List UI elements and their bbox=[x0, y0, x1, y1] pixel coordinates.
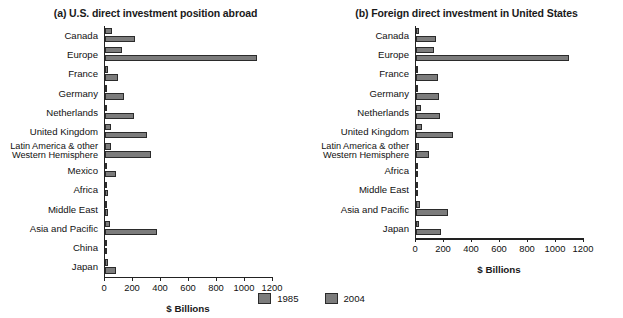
panel-a-plot: CanadaEuropeFranceGermanyNetherlandsUnit… bbox=[0, 26, 311, 314]
bar-2004 bbox=[105, 113, 134, 119]
bar-track bbox=[104, 122, 272, 141]
bar-1985 bbox=[105, 182, 107, 188]
bar-track bbox=[104, 180, 272, 199]
category-label: Japan bbox=[0, 262, 104, 272]
bar-1985 bbox=[416, 105, 421, 111]
bar-2004 bbox=[416, 74, 438, 80]
bar-2004 bbox=[105, 171, 116, 177]
bar-1985 bbox=[105, 201, 107, 207]
bar-2004 bbox=[105, 209, 108, 215]
bar-2004 bbox=[105, 55, 257, 61]
bar-1985 bbox=[105, 259, 108, 265]
chart-row: Africa bbox=[311, 161, 622, 180]
chart-row: Europe bbox=[311, 45, 622, 64]
bar-2004 bbox=[416, 36, 436, 42]
bar-1985 bbox=[416, 221, 419, 227]
bar-1985 bbox=[105, 66, 108, 72]
chart-row: United Kingdom bbox=[0, 122, 311, 141]
axis-tick-label: 200 bbox=[435, 243, 451, 254]
bar-2004 bbox=[416, 93, 439, 99]
bar-track bbox=[104, 238, 272, 257]
bar-2004 bbox=[416, 55, 569, 61]
category-label: Middle East bbox=[0, 205, 104, 215]
axis-tick-label: 600 bbox=[491, 243, 507, 254]
category-label: Europe bbox=[311, 50, 415, 60]
bar-track bbox=[415, 122, 583, 141]
chart-row: Asia and Pacific bbox=[311, 200, 622, 219]
chart-row: Mexico bbox=[0, 161, 311, 180]
category-label: Japan bbox=[311, 224, 415, 234]
bar-track bbox=[104, 84, 272, 103]
bar-track bbox=[415, 84, 583, 103]
bar-2004 bbox=[416, 229, 441, 235]
chart-row: Latin America & other Western Hemisphere bbox=[0, 142, 311, 161]
axis-tick-label: 400 bbox=[463, 243, 479, 254]
category-label: Asia and Pacific bbox=[311, 205, 415, 215]
bar-1985 bbox=[416, 85, 418, 91]
bar-2004 bbox=[105, 132, 147, 138]
legend-swatch-icon bbox=[258, 293, 271, 304]
panel-a-tick-labels: 020040060080010001200 bbox=[104, 278, 272, 292]
chart-row: Canada bbox=[311, 26, 622, 45]
category-label: France bbox=[0, 69, 104, 79]
panel-b-title: (b) Foreign direct investment in United … bbox=[311, 0, 622, 26]
chart-row: Latin America & other Western Hemisphere bbox=[311, 142, 622, 161]
chart-row: Europe bbox=[0, 45, 311, 64]
bar-1985 bbox=[105, 28, 112, 34]
chart-row: Middle East bbox=[311, 180, 622, 199]
chart-row: France bbox=[311, 65, 622, 84]
bar-2004 bbox=[105, 93, 124, 99]
chart-row: Africa bbox=[0, 180, 311, 199]
bar-2004 bbox=[105, 267, 116, 273]
bar-track bbox=[415, 180, 583, 199]
bar-1985 bbox=[416, 182, 418, 188]
category-label: Germany bbox=[311, 89, 415, 99]
axis-tick-label: 1000 bbox=[234, 282, 255, 293]
bar-2004 bbox=[105, 151, 151, 157]
bar-track bbox=[104, 200, 272, 219]
chart-row: Canada bbox=[0, 26, 311, 45]
bar-track bbox=[104, 142, 272, 161]
category-label: Latin America & other Western Hemisphere bbox=[311, 142, 415, 161]
bar-1985 bbox=[416, 163, 418, 169]
category-label: United Kingdom bbox=[311, 127, 415, 137]
axis-tick-label: 0 bbox=[412, 243, 417, 254]
category-label: Africa bbox=[311, 166, 415, 176]
panel-a-title: (a) U.S. direct investment position abro… bbox=[0, 0, 311, 26]
axis-tick-label: 0 bbox=[101, 282, 106, 293]
bar-2004 bbox=[105, 190, 108, 196]
chart-row: Japan bbox=[0, 258, 311, 277]
axis-tick-label: 800 bbox=[519, 243, 535, 254]
axis-tick-label: 600 bbox=[180, 282, 196, 293]
bar-1985 bbox=[105, 105, 107, 111]
bar-track bbox=[415, 161, 583, 180]
bar-2004 bbox=[105, 229, 157, 235]
legend-label: 1985 bbox=[277, 293, 298, 304]
axis-tick bbox=[583, 238, 584, 242]
category-label: Asia and Pacific bbox=[0, 224, 104, 234]
chart-row: Middle East bbox=[0, 200, 311, 219]
bar-1985 bbox=[105, 124, 111, 130]
bar-2004 bbox=[416, 132, 453, 138]
axis-tick bbox=[272, 277, 273, 281]
bar-2004 bbox=[416, 190, 418, 196]
bar-2004 bbox=[416, 113, 440, 119]
category-label: Germany bbox=[0, 89, 104, 99]
bar-track bbox=[104, 103, 272, 122]
chart-row: Netherlands bbox=[311, 103, 622, 122]
bar-track bbox=[415, 142, 583, 161]
category-label: Canada bbox=[311, 31, 415, 41]
legend-swatch-icon bbox=[325, 293, 338, 304]
legend-item: 2004 bbox=[325, 293, 365, 304]
bar-track bbox=[415, 219, 583, 238]
chart-row: Germany bbox=[0, 84, 311, 103]
category-label: Mexico bbox=[0, 166, 104, 176]
panel-a-rows: CanadaEuropeFranceGermanyNetherlandsUnit… bbox=[0, 26, 311, 277]
bar-1985 bbox=[416, 47, 434, 53]
category-label: Netherlands bbox=[0, 108, 104, 118]
axis-tick-label: 1200 bbox=[573, 243, 594, 254]
bar-track bbox=[415, 103, 583, 122]
axis-tick-label: 1000 bbox=[545, 243, 566, 254]
bar-track bbox=[104, 26, 272, 45]
bar-1985 bbox=[416, 28, 419, 34]
